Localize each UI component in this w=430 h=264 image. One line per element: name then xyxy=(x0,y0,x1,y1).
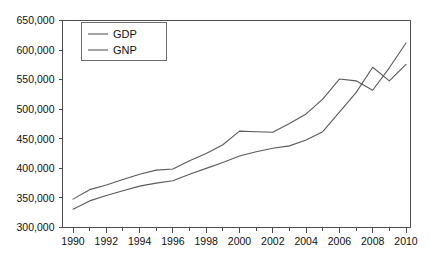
chart-legend: GDP GNP xyxy=(82,23,167,61)
y-tick-label: 550,000 xyxy=(17,73,55,85)
x-tick-label: 1992 xyxy=(95,235,119,247)
chart-canvas: 300,000350,000400,000450,000500,000550,0… xyxy=(0,0,430,264)
x-tick-label: 2010 xyxy=(394,235,418,247)
y-tick-label: 400,000 xyxy=(17,162,55,174)
y-tick-label: 300,000 xyxy=(17,221,55,233)
x-tick-label: 2000 xyxy=(228,235,252,247)
x-axis-tick-labels: 1990199219941996199820002002200420062008… xyxy=(61,235,418,247)
y-tick-label: 450,000 xyxy=(17,133,55,145)
x-tick-label: 2002 xyxy=(261,235,285,247)
x-tick-label: 1998 xyxy=(195,235,219,247)
line-chart: 300,000350,000400,000450,000500,000550,0… xyxy=(0,0,430,264)
x-tick-label: 1990 xyxy=(61,235,85,247)
x-tick-label: 1994 xyxy=(128,235,152,247)
chart-background xyxy=(0,0,430,264)
y-tick-label: 350,000 xyxy=(17,192,55,204)
y-tick-label: 600,000 xyxy=(17,44,55,56)
x-tick-label: 2006 xyxy=(328,235,352,247)
x-tick-label: 2004 xyxy=(294,235,318,247)
legend-label-gdp: GDP xyxy=(113,28,137,40)
x-tick-label: 1996 xyxy=(161,235,185,247)
x-tick-label: 2008 xyxy=(361,235,385,247)
legend-label-gnp: GNP xyxy=(113,44,137,56)
y-tick-label: 650,000 xyxy=(17,14,55,26)
y-tick-label: 500,000 xyxy=(17,103,55,115)
